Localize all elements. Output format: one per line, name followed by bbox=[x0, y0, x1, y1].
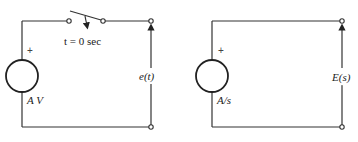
output-label: e(t) bbox=[139, 70, 155, 83]
source-label: A V bbox=[26, 94, 44, 106]
output-terminal-top bbox=[149, 19, 153, 23]
voltage-source-icon bbox=[196, 60, 228, 92]
switch-action-arrow bbox=[85, 16, 87, 26]
output-terminal-bottom bbox=[149, 125, 153, 129]
switch-label: t = 0 sec bbox=[64, 35, 101, 47]
source-polarity: + bbox=[27, 45, 33, 56]
circuit-diagrams: + A V t = 0 sec e(t) + A/s E(s) bbox=[0, 0, 358, 142]
switch-terminal-right bbox=[101, 19, 105, 23]
switch-terminal-left bbox=[67, 19, 71, 23]
source-label: A/s bbox=[216, 94, 231, 106]
output-terminal-top bbox=[340, 19, 344, 23]
time-domain-circuit: + A V t = 0 sec e(t) bbox=[6, 11, 155, 129]
s-domain-circuit: + A/s E(s) bbox=[196, 19, 351, 129]
output-terminal-bottom bbox=[340, 125, 344, 129]
output-label: E(s) bbox=[331, 71, 351, 84]
voltage-source-icon bbox=[6, 60, 38, 92]
source-polarity: + bbox=[218, 45, 224, 56]
